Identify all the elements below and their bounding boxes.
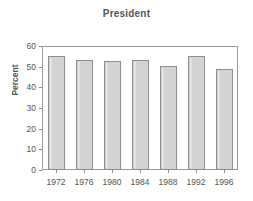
x-axis-tick-mark: [140, 170, 141, 173]
y-axis-tick-label: 30: [14, 103, 36, 113]
bar: [104, 61, 121, 170]
bar: [216, 69, 233, 170]
y-axis-tick-label: 0: [14, 165, 36, 175]
x-axis-tick-label: 1988: [154, 177, 182, 188]
x-axis-tick-label: 1980: [98, 177, 126, 188]
bar: [160, 66, 177, 170]
x-axis-tick-mark: [112, 170, 113, 173]
bar: [188, 56, 205, 170]
bar-highlight: [134, 62, 136, 168]
x-axis-tick-label: 1996: [210, 177, 238, 188]
x-axis-tick-label: 1976: [70, 177, 98, 188]
x-axis-tick-label: 1992: [182, 177, 210, 188]
x-axis-tick-mark: [224, 170, 225, 173]
x-axis-tick-mark: [168, 170, 169, 173]
x-axis-tick-mark: [196, 170, 197, 173]
y-axis-tick-mark: [39, 149, 42, 150]
bar-chart: President Percent 0102030405060 19721976…: [0, 0, 253, 201]
y-axis-tick-mark: [39, 67, 42, 68]
y-axis-tick-label: 20: [14, 124, 36, 134]
y-axis-tick-label: 60: [14, 41, 36, 51]
bar-highlight: [78, 62, 80, 168]
y-axis-tick-mark: [39, 87, 42, 88]
x-axis-tick-label: 1984: [126, 177, 154, 188]
y-axis-tick-mark: [39, 46, 42, 47]
x-axis-tick-label: 1972: [42, 177, 70, 188]
bar: [132, 60, 149, 170]
bar-highlight: [106, 63, 108, 168]
y-axis-tick-label: 10: [14, 144, 36, 154]
chart-title: President: [0, 8, 253, 20]
x-axis-tick-mark: [56, 170, 57, 173]
bar: [76, 60, 93, 170]
y-axis-tick-mark: [39, 108, 42, 109]
bar: [48, 56, 65, 170]
bar-highlight: [162, 68, 164, 168]
bar-highlight: [218, 71, 220, 168]
bar-highlight: [190, 58, 192, 168]
y-axis-tick-mark: [39, 170, 42, 171]
y-axis-tick-mark: [39, 129, 42, 130]
bar-highlight: [50, 58, 52, 168]
y-axis-tick-label: 50: [14, 62, 36, 72]
y-axis-tick-label: 40: [14, 82, 36, 92]
x-axis-tick-mark: [84, 170, 85, 173]
